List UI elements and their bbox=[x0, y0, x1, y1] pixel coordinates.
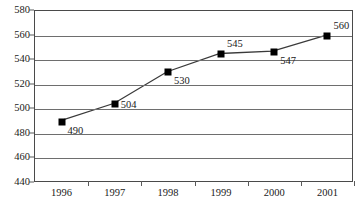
y-axis-tick-label: 580 bbox=[14, 5, 30, 16]
gridline bbox=[35, 109, 352, 110]
x-axis-tick-mark bbox=[301, 181, 302, 186]
y-axis-tick-mark bbox=[29, 182, 34, 183]
data-point-marker bbox=[111, 101, 118, 108]
y-axis-tick-label: 540 bbox=[14, 54, 30, 65]
data-point-marker bbox=[218, 51, 225, 58]
data-point-marker bbox=[271, 48, 278, 55]
x-axis-tick-mark bbox=[248, 181, 249, 186]
y-axis-tick-label: 500 bbox=[14, 103, 30, 114]
gridline bbox=[35, 85, 352, 86]
data-point-label: 547 bbox=[280, 56, 296, 67]
line-chart: 1996199719981999200020014905045305455475… bbox=[0, 0, 363, 212]
y-axis-tick-mark bbox=[29, 59, 34, 60]
y-axis-tick-label: 480 bbox=[14, 128, 30, 139]
x-axis-tick-label: 1996 bbox=[51, 188, 72, 199]
y-axis-tick-mark bbox=[29, 157, 34, 158]
data-point-marker bbox=[58, 118, 65, 125]
x-axis-tick-label: 2000 bbox=[264, 188, 285, 199]
y-axis-tick-mark bbox=[29, 10, 34, 11]
x-axis-tick-mark bbox=[354, 181, 355, 186]
x-axis-tick-mark bbox=[141, 181, 142, 186]
x-axis-tick-mark bbox=[195, 181, 196, 186]
data-point-label: 545 bbox=[227, 39, 243, 50]
data-point-label: 490 bbox=[68, 126, 84, 137]
data-point-label: 560 bbox=[333, 21, 349, 32]
y-axis-tick-label: 560 bbox=[14, 29, 30, 40]
gridline bbox=[35, 60, 352, 61]
y-axis-tick-label: 460 bbox=[14, 152, 30, 163]
y-axis-tick-mark bbox=[29, 83, 34, 84]
x-axis-tick-label: 1997 bbox=[104, 188, 125, 199]
x-axis-tick-label: 2001 bbox=[317, 188, 338, 199]
y-axis-tick-mark bbox=[29, 132, 34, 133]
plot-area: 1996199719981999200020014905045305455475… bbox=[34, 10, 353, 182]
x-axis-tick-label: 1998 bbox=[157, 188, 178, 199]
y-axis-tick-label: 440 bbox=[14, 177, 30, 188]
x-axis-tick-mark bbox=[88, 181, 89, 186]
data-point-label: 530 bbox=[174, 76, 190, 87]
gridline bbox=[35, 36, 352, 37]
y-axis-tick-mark bbox=[29, 34, 34, 35]
y-axis-tick-mark bbox=[29, 108, 34, 109]
data-point-marker bbox=[164, 69, 171, 76]
data-point-label: 504 bbox=[121, 100, 137, 111]
x-axis-tick-label: 1999 bbox=[211, 188, 232, 199]
gridline bbox=[35, 158, 352, 159]
y-axis-tick-label: 520 bbox=[14, 78, 30, 89]
data-point-marker bbox=[324, 32, 331, 39]
